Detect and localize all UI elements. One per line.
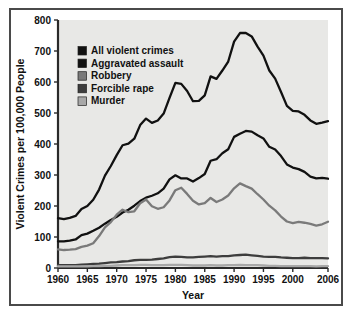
x-tick-label: 2006 bbox=[317, 274, 340, 285]
x-tick-label: 1990 bbox=[223, 274, 246, 285]
y-tick-label: 500 bbox=[34, 108, 51, 119]
legend-label-3: Forcible rape bbox=[91, 83, 154, 94]
y-tick-label: 100 bbox=[34, 232, 51, 243]
chart-figure-frame: 0100200300400500600700800 19601965197019… bbox=[9, 8, 343, 306]
x-axis-title: Year bbox=[182, 289, 204, 301]
legend-label-0: All violent crimes bbox=[91, 45, 174, 56]
x-tick-label: 1980 bbox=[164, 274, 187, 285]
legend-label-2: Robbery bbox=[91, 70, 132, 81]
legend-swatch-0 bbox=[78, 47, 87, 56]
legend-swatch-1 bbox=[78, 59, 87, 68]
violent-crime-line-chart: 0100200300400500600700800 19601965197019… bbox=[11, 10, 341, 304]
legend-label-1: Aggravated assault bbox=[91, 58, 184, 69]
legend-swatch-4 bbox=[78, 97, 87, 106]
y-tick-label: 0 bbox=[45, 263, 51, 274]
series-line-4 bbox=[58, 265, 328, 267]
x-tick-label: 2000 bbox=[282, 274, 305, 285]
y-tick-label: 400 bbox=[34, 139, 51, 150]
y-axis-ticks: 0100200300400500600700800 bbox=[34, 15, 58, 274]
y-tick-label: 700 bbox=[34, 46, 51, 57]
x-tick-label: 1985 bbox=[194, 274, 217, 285]
x-axis-ticks: 1960196519701975198019851990199520002006 bbox=[47, 268, 340, 285]
y-tick-label: 800 bbox=[34, 15, 51, 26]
x-tick-label: 1970 bbox=[106, 274, 129, 285]
legend-swatch-3 bbox=[78, 84, 87, 93]
x-tick-label: 1975 bbox=[135, 274, 158, 285]
y-tick-label: 300 bbox=[34, 170, 51, 181]
y-tick-label: 600 bbox=[34, 77, 51, 88]
y-tick-label: 200 bbox=[34, 201, 51, 212]
x-tick-label: 1965 bbox=[76, 274, 99, 285]
legend-label-4: Murder bbox=[91, 95, 125, 106]
legend-swatch-2 bbox=[78, 72, 87, 81]
x-tick-label: 1995 bbox=[252, 274, 275, 285]
y-axis-title: Violent Crimes per 100,000 People bbox=[14, 58, 26, 229]
x-tick-label: 1960 bbox=[47, 274, 70, 285]
